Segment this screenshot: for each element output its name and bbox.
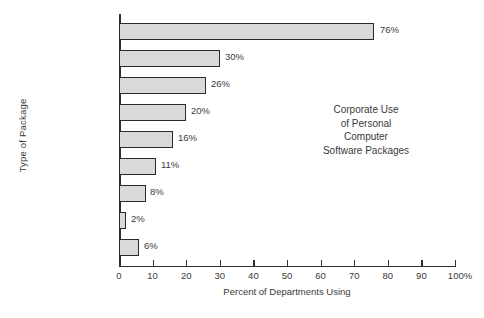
bar-value-label: 8% [150,186,164,197]
x-tick-label: 40 [248,270,259,281]
bar-value-label: 30% [225,51,244,62]
x-tick [220,260,221,266]
x-tick [388,260,389,266]
bar-value-label: 2% [131,213,145,224]
chart-title: Corporate Use of Personal Computer Softw… [288,103,444,157]
bar[interactable] [119,23,374,40]
chart-title-line: Corporate Use [288,103,444,117]
x-tick-label: 80 [383,270,394,281]
bar-value-label: 26% [211,78,230,89]
x-tick [253,260,254,266]
x-tick-label: 20 [181,270,192,281]
bar[interactable] [119,185,146,202]
x-tick-label: 10 [147,270,158,281]
x-tick-label: 0 [116,270,121,281]
x-tick [455,260,456,266]
chart-title-line: Computer [288,130,444,144]
x-tick [354,260,355,266]
bar-value-label: 16% [178,132,197,143]
bar[interactable] [119,104,186,121]
x-tick [153,260,154,266]
x-tick [321,260,322,266]
x-tick-label: 100% [448,270,472,281]
x-tick-label: 50 [282,270,293,281]
x-tick [119,260,120,266]
x-tick-label: 60 [315,270,326,281]
x-tick [287,260,288,266]
y-axis-title: Type of Package [17,76,28,196]
chart-title-line: of Personal [288,117,444,131]
bar[interactable] [119,131,173,148]
bar[interactable] [119,158,156,175]
x-tick [186,260,187,266]
x-tick-label: 70 [349,270,360,281]
bar[interactable] [119,212,126,229]
x-axis-line [119,266,456,268]
x-tick [421,260,422,266]
x-axis-title: Percent of Departments Using [119,286,455,297]
x-tick-label: 90 [416,270,427,281]
bar-chart: Type of Package “Calcs” 76% Word Process… [0,0,484,318]
bar[interactable] [119,239,139,256]
chart-title-line: Software Packages [288,144,444,158]
x-tick-label: 30 [215,270,226,281]
bar-value-label: 76% [380,24,399,35]
bar-value-label: 11% [161,159,179,170]
bar-value-label: 6% [144,240,158,251]
bar[interactable] [119,50,220,67]
bar[interactable] [119,77,206,94]
bar-value-label: 20% [191,105,210,116]
